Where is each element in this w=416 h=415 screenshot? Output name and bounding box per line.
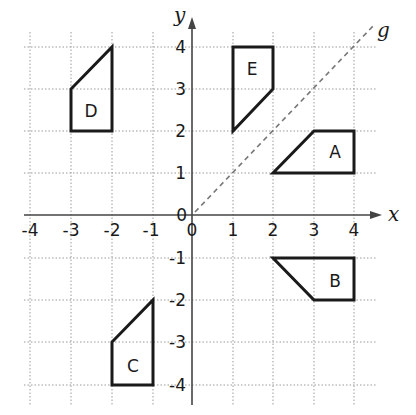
svg-text:-3: -3: [63, 220, 80, 240]
x-axis-label: x: [388, 202, 399, 226]
mirror-line-g: [195, 25, 374, 212]
svg-text:-2: -2: [169, 290, 186, 310]
svg-text:2: 2: [175, 121, 186, 141]
svg-text:3: 3: [309, 220, 320, 240]
svg-text:4: 4: [175, 37, 186, 57]
y-tick-labels: 4 3 2 1 0 -1 -2 -3 -4: [169, 37, 187, 395]
svg-text:-4: -4: [169, 375, 186, 395]
coordinate-grid-diagram: g x y -4 -3 -2 -1 0 1 2 3 4 4 3 2 1: [0, 0, 416, 415]
x-axis-arrow-icon: [370, 211, 382, 219]
svg-text:-4: -4: [22, 220, 39, 240]
y-axis-arrow-icon: [188, 17, 196, 29]
y-axis-label: y: [173, 3, 186, 27]
shape-d-label: D: [84, 101, 97, 121]
svg-text:1: 1: [228, 220, 239, 240]
svg-text:0: 0: [176, 205, 187, 225]
grid: [24, 32, 376, 405]
svg-text:-2: -2: [104, 220, 121, 240]
svg-text:0: 0: [187, 220, 198, 240]
svg-text:1: 1: [175, 163, 186, 183]
axes: x y: [24, 3, 399, 405]
shape-e-label: E: [247, 59, 258, 79]
shape-c-label: C: [127, 356, 139, 376]
svg-text:-3: -3: [169, 332, 186, 352]
svg-text:3: 3: [175, 79, 186, 99]
x-tick-labels: -4 -3 -2 -1 0 1 2 3 4: [22, 220, 360, 240]
mirror-line-label: g: [377, 18, 390, 42]
svg-text:4: 4: [349, 220, 360, 240]
shape-b-label: B: [329, 271, 341, 291]
svg-text:-1: -1: [169, 248, 186, 268]
svg-text:-1: -1: [143, 220, 160, 240]
shape-a-label: A: [329, 142, 341, 162]
svg-text:2: 2: [268, 220, 279, 240]
